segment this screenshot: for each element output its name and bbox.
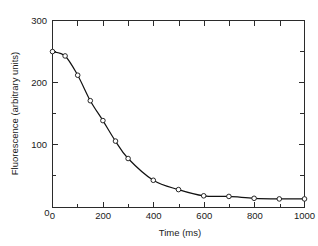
data-point	[227, 194, 232, 199]
data-point	[126, 156, 131, 161]
x-tick-label-800: 800	[247, 210, 263, 221]
data-point	[252, 196, 257, 201]
chart-plot-area: 0 200 400 600 800 1000 0 100 200 300 Tim…	[0, 0, 318, 246]
data-point	[201, 194, 206, 199]
y-tick-label-100: 100	[31, 139, 47, 150]
data-curve	[53, 52, 305, 199]
x-tick-label-1000: 1000	[294, 210, 315, 221]
data-point	[277, 197, 282, 202]
y-tick-label-200: 200	[31, 77, 47, 88]
data-point	[113, 139, 118, 144]
data-point	[302, 197, 307, 202]
data-point	[63, 54, 68, 59]
y-axis-minor-ticks	[53, 51, 57, 176]
data-point	[101, 118, 106, 123]
x-tick-label-200: 200	[95, 210, 111, 221]
data-point	[88, 98, 93, 103]
x-axis-title: Time (ms)	[159, 227, 201, 238]
x-tick-label-400: 400	[146, 210, 162, 221]
x-tick-label-600: 600	[196, 210, 212, 221]
data-point	[151, 178, 156, 183]
data-point	[50, 49, 55, 54]
x-tick-label-0: 0	[50, 210, 55, 221]
y-tick-label-0: 0	[44, 207, 49, 218]
y-tick-label-300: 300	[31, 15, 47, 26]
data-markers	[50, 49, 307, 201]
data-point	[176, 187, 181, 192]
data-point	[75, 73, 80, 78]
y-axis-right-ticks	[299, 51, 305, 176]
x-axis-top-ticks	[78, 21, 280, 27]
y-axis-title: Fluorescence (arbitrary units)	[9, 52, 20, 176]
plot-frame	[53, 21, 305, 208]
chart-figure: 0 200 400 600 800 1000 0 100 200 300 Tim…	[0, 0, 318, 246]
